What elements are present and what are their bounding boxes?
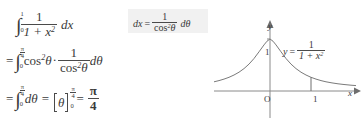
substitution-differential: dθ bbox=[177, 18, 190, 29]
solution-line-3: =∫π40dθ=θπ40=π4 bbox=[4, 84, 99, 112]
substitution-numerator: 1 bbox=[152, 12, 177, 23]
substitution-denominator: cos2θ bbox=[152, 23, 177, 34]
reciprocal-fraction-line2: 1cos2θ bbox=[58, 46, 90, 74]
integral-upper-limit-line3: π4 bbox=[20, 84, 25, 98]
integral-lower-limit-line1: 0 bbox=[20, 26, 23, 33]
equals1-line3: = bbox=[4, 91, 15, 106]
bracket-lower-limit: 0 bbox=[70, 102, 73, 109]
integrand-numerator-line1: 1 bbox=[21, 10, 57, 25]
denominator-exponent-line1: 2 bbox=[51, 24, 55, 33]
reciprocal-denominator-line2: cos2θ bbox=[58, 61, 90, 75]
bracket-content-theta: θ bbox=[58, 95, 64, 110]
equals-line2: = bbox=[4, 53, 15, 68]
math-solution-page: ∫1011 + x2dx dx=1cos2θdθ =∫π40cos2θ·1cos… bbox=[0, 0, 362, 123]
substitution-formula: dx=1cos2θdθ bbox=[133, 12, 190, 34]
final-result-fraction: π4 bbox=[88, 84, 99, 112]
reciprocal-numerator-line2: 1 bbox=[58, 46, 90, 61]
integral-upper-limit-line2: π4 bbox=[20, 46, 25, 60]
y-axis-label: y bbox=[268, 21, 272, 31]
curve-equation-label: y=11 + x2 bbox=[283, 40, 325, 62]
curve-label-fraction: 11 + x2 bbox=[297, 40, 325, 62]
final-result-numerator: π bbox=[88, 84, 99, 99]
integral-lower-limit-line3: 0 bbox=[20, 100, 23, 107]
equals2-line3: = bbox=[38, 91, 53, 106]
substitution-equals: = bbox=[142, 18, 152, 29]
solution-line-1: ∫1011 + x2dx bbox=[16, 10, 73, 38]
differential-line1: dx bbox=[57, 17, 73, 32]
differential-line2: dθ bbox=[90, 53, 103, 68]
origin-label: O bbox=[264, 94, 271, 104]
integral-upper-limit-line1: 1 bbox=[20, 10, 23, 17]
substitution-fraction: 1cos2θ bbox=[152, 12, 177, 34]
evaluation-bracket: θ bbox=[54, 93, 68, 112]
integrand-denominator-line1: 1 + x2 bbox=[21, 25, 57, 39]
curve-label-equals: = bbox=[287, 46, 297, 57]
integrand-fraction-line1: 11 + x2 bbox=[21, 10, 57, 38]
curve-label-denominator: 1 + x2 bbox=[297, 51, 325, 62]
integral-lower-limit-line2: 0 bbox=[20, 62, 23, 69]
x-tick-label-1: 1 bbox=[313, 94, 318, 104]
solution-line-2: =∫π40cos2θ·1cos2θdθ bbox=[4, 46, 103, 74]
y-tick-label-1: 1 bbox=[265, 47, 270, 57]
x-axis-label: x bbox=[348, 88, 352, 98]
bracket-upper-limit: π4 bbox=[70, 86, 75, 100]
final-result-denominator: 4 bbox=[88, 99, 99, 113]
x-axis-arrow bbox=[354, 88, 361, 95]
